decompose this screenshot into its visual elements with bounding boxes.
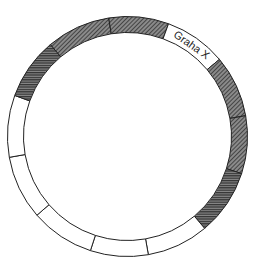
ring-segment-8 [90,235,148,256]
ring-segment-12 [15,45,61,101]
ring-segment-4 [207,59,246,118]
segmented-ring-diagram: Graha X [0,0,255,265]
ring-segment-1 [50,18,111,57]
ring-segment-2 [109,17,169,39]
ring-segments [7,17,247,257]
ring-segment-9 [37,205,95,251]
ring-segment-5 [226,116,247,174]
ring-segment-11 [7,95,29,157]
ring-segment-10 [9,155,49,216]
ring-segment-6 [194,169,241,229]
ring-segment-7 [146,216,205,255]
